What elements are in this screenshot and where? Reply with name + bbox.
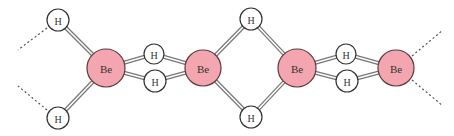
- dashed-bond: [18, 28, 47, 50]
- dashed-bond: [412, 80, 443, 106]
- atom-label: H: [151, 77, 158, 88]
- atom-be4: Be: [378, 50, 414, 86]
- atom-label: Be: [291, 63, 303, 75]
- atom-label: Be: [197, 63, 209, 75]
- atom-label: H: [54, 16, 61, 27]
- atom-label: Be: [100, 63, 112, 75]
- atom-label: H: [54, 114, 61, 125]
- atom-be3: Be: [278, 49, 316, 87]
- atom-label: H: [247, 113, 254, 124]
- atom-h6: H: [240, 106, 262, 128]
- atom-label: H: [247, 15, 254, 26]
- atom-be2: Be: [185, 50, 221, 86]
- atom-label: Be: [390, 63, 402, 75]
- beryllium-hydride-chain-diagram: HHBeHHBeHHBeHHBe: [0, 0, 454, 136]
- dashed-bond: [18, 86, 47, 110]
- dashed-bond: [412, 30, 443, 56]
- atom-h2: H: [47, 107, 69, 129]
- atom-h5: H: [240, 8, 262, 30]
- atom-h1: H: [47, 9, 69, 31]
- atom-label: H: [343, 77, 350, 88]
- atoms: HHBeHHBeHHBeHHBe: [47, 8, 414, 129]
- atom-h4: H: [144, 70, 166, 92]
- atom-h7: H: [336, 44, 356, 64]
- atom-label: H: [342, 50, 349, 61]
- atom-label: H: [150, 50, 157, 61]
- atom-be1: Be: [87, 49, 125, 87]
- atom-h8: H: [336, 70, 358, 92]
- atom-h3: H: [144, 44, 164, 64]
